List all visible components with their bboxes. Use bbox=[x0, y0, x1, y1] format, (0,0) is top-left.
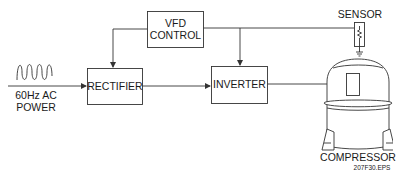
input-power-label: 60Hz AC POWER bbox=[14, 89, 58, 113]
sine-wave-icon bbox=[17, 65, 52, 81]
ground-icon bbox=[356, 52, 363, 56]
rectifier-label: RECTIFIER bbox=[87, 80, 143, 92]
input-label-line1: 60Hz AC bbox=[14, 89, 58, 101]
inverter-label: INVERTER bbox=[211, 78, 268, 90]
vfd-label-line1: VFD bbox=[147, 17, 204, 29]
compressor-label: COMPRESSOR bbox=[320, 151, 396, 163]
vfd-label-line2: CONTROL bbox=[147, 29, 204, 41]
compressor-icon bbox=[322, 59, 393, 150]
input-label-line2: POWER bbox=[14, 101, 58, 113]
figure-id: 207F30.EPS bbox=[352, 164, 392, 172]
sensor-label: SENSOR bbox=[332, 8, 388, 20]
control-line-rectifier bbox=[113, 29, 148, 67]
vfd-control-label: VFD CONTROL bbox=[147, 17, 204, 41]
